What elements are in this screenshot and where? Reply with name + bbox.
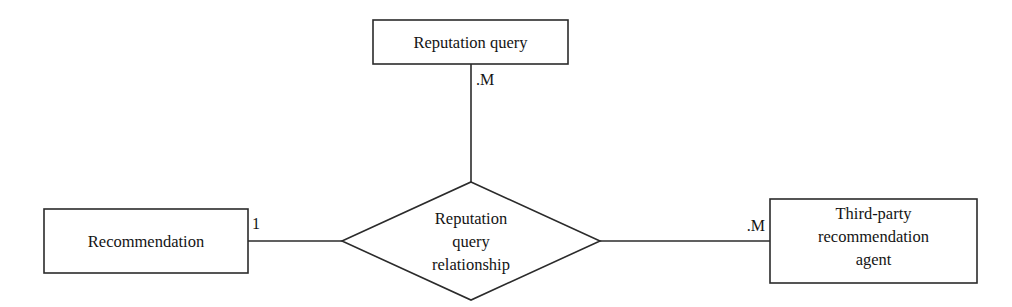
- entity-reputation-query[interactable]: Reputation query: [373, 20, 568, 64]
- cardinality-label-agent: .M: [747, 217, 765, 234]
- entity-recommendation[interactable]: Recommendation: [44, 209, 248, 273]
- entity-reputation-query-label: Reputation query: [413, 33, 528, 52]
- relationship-label-line-1: Reputation: [435, 209, 507, 228]
- relationship-label-line-3: relationship: [432, 255, 510, 274]
- cardinality-label-reputation-query: .M: [476, 71, 494, 88]
- entity-recommendation-label: Recommendation: [88, 232, 204, 251]
- entity-third-party-recommendation-agent-label-line-3: agent: [856, 250, 892, 269]
- er-diagram-container: Reputation query Recommendation Third-pa…: [0, 0, 1012, 307]
- entity-third-party-recommendation-agent-label-line-2: recommendation: [818, 227, 929, 246]
- relationship-label-line-2: query: [452, 232, 490, 251]
- entity-third-party-recommendation-agent[interactable]: Third-party recommendation agent: [770, 199, 977, 283]
- entity-third-party-recommendation-agent-label-line-1: Third-party: [835, 204, 912, 223]
- cardinality-label-recommendation: 1: [252, 215, 260, 232]
- relationship-reputation-query-relationship[interactable]: Reputation query relationship: [342, 182, 600, 300]
- er-diagram-canvas: Reputation query Recommendation Third-pa…: [0, 0, 1012, 307]
